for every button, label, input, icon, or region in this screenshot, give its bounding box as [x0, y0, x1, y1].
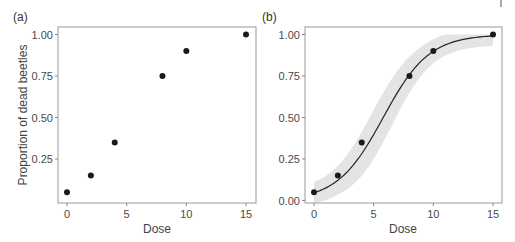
panel-a: (a) 0.250.500.751.00 051015 Dose Proport…	[13, 10, 256, 236]
data-point	[159, 73, 165, 79]
y-tick-label: 0.75	[279, 70, 300, 82]
y-tick-label: 0.25	[32, 153, 53, 165]
panel-a-y-label: Proportion of dead beetles	[16, 45, 30, 186]
panel-b-y-axis: 0.000.250.500.751.00	[279, 29, 305, 207]
panel-a-plot-frame	[58, 27, 256, 203]
x-tick-label: 10	[427, 208, 439, 220]
chart-figure: (a) 0.250.500.751.00 051015 Dose Proport…	[0, 0, 515, 242]
data-point	[311, 189, 317, 195]
data-point	[88, 173, 94, 179]
data-point	[335, 173, 341, 179]
x-tick-label: 0	[311, 208, 317, 220]
data-point	[430, 48, 436, 54]
data-point	[490, 32, 496, 38]
x-tick-label: 0	[64, 208, 70, 220]
y-tick-label: 0.00	[279, 195, 300, 207]
panel-a-points	[64, 32, 249, 196]
panel-a-label: (a)	[13, 10, 28, 24]
panel-b-x-label: Dose	[389, 222, 417, 236]
y-tick-label: 0.25	[279, 153, 300, 165]
panel-b-x-axis: 051015	[311, 203, 499, 220]
data-point	[112, 139, 118, 145]
data-point	[64, 189, 70, 195]
x-tick-label: 15	[487, 208, 499, 220]
data-point	[183, 48, 189, 54]
panel-a-x-label: Dose	[143, 222, 171, 236]
y-tick-label: 0.50	[279, 112, 300, 124]
y-tick-label: 0.75	[32, 70, 53, 82]
x-tick-label: 5	[371, 208, 377, 220]
panel-b: (b) 0.000.250.500.751.00 051015 Dose	[262, 10, 502, 236]
y-tick-label: 0.50	[32, 112, 53, 124]
panel-a-x-axis: 051015	[64, 203, 252, 220]
y-tick-label: 1.00	[32, 29, 53, 41]
panel-b-confidence-band	[314, 35, 493, 203]
data-point	[243, 32, 249, 38]
data-point	[406, 73, 412, 79]
data-point	[359, 139, 365, 145]
panel-b-label: (b)	[262, 10, 277, 24]
x-tick-label: 10	[180, 208, 192, 220]
x-tick-label: 15	[240, 208, 252, 220]
y-tick-label: 1.00	[279, 29, 300, 41]
panel-a-y-axis: 0.250.500.751.00	[32, 29, 58, 166]
x-tick-label: 5	[124, 208, 130, 220]
